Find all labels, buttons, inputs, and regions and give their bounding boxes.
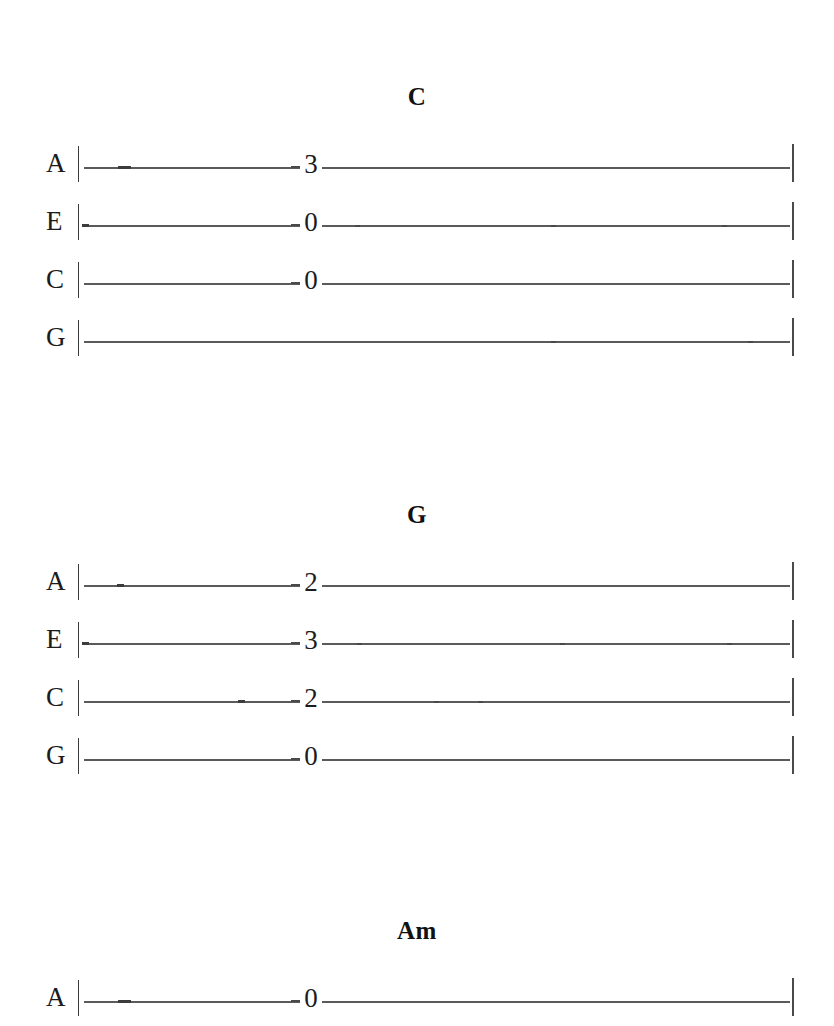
string-tick (727, 643, 732, 645)
fret-flank-dash (291, 282, 300, 284)
string-tick (355, 225, 360, 227)
string-label: C (46, 264, 74, 294)
string-row-g: G (0, 322, 834, 380)
chord-title: Am (0, 918, 834, 944)
string-line-right (322, 585, 790, 587)
string-line-full (84, 341, 790, 343)
string-tick (560, 643, 565, 645)
string-line-right (322, 225, 790, 227)
measure-bar-left (78, 564, 79, 600)
string-tick (357, 643, 362, 645)
string-label: E (46, 206, 74, 236)
title-spacer (0, 110, 834, 148)
string-label: A (46, 566, 74, 596)
measure-bar-right (792, 144, 794, 182)
measure-bar-left (78, 680, 79, 716)
string-line-right (322, 759, 790, 761)
chord-title: G (0, 502, 834, 528)
string-line-left (84, 643, 300, 645)
string-tick (124, 166, 131, 169)
string-line-left (84, 283, 300, 285)
measure-bar-right (792, 318, 794, 356)
tablature-page: CA3E0C0GGA2E3C2G0AmA0 (0, 0, 834, 1026)
string-line-right (322, 701, 790, 703)
string-label: E (46, 624, 74, 654)
string-line-left (84, 167, 300, 169)
string-line-right (322, 283, 790, 285)
fret-number: 3 (300, 625, 322, 655)
fret-flank-dash (291, 1000, 300, 1002)
measure-bar-left (78, 622, 79, 658)
chord-section-c: CA3E0C0G (0, 84, 834, 380)
string-tick (434, 701, 439, 703)
string-row-a: A2 (0, 566, 834, 624)
measure-bar-right (792, 736, 794, 774)
measure-bar-right (792, 260, 794, 298)
string-tick (82, 224, 89, 227)
measure-bar-right (792, 202, 794, 240)
measure-bar-right (792, 620, 794, 658)
string-label: G (46, 322, 74, 352)
measure-bar-left (78, 146, 79, 182)
string-row-g: G0 (0, 740, 834, 798)
fret-number: 2 (300, 567, 322, 597)
string-tick (124, 1000, 131, 1003)
chord-section-g: GA2E3C2G0 (0, 502, 834, 798)
string-line-left (84, 225, 300, 227)
string-tick (551, 225, 556, 227)
string-row-e: E0 (0, 206, 834, 264)
string-tick (478, 701, 483, 703)
string-tick (238, 700, 245, 703)
string-line-left (84, 759, 300, 761)
fret-number: 0 (300, 741, 322, 771)
measure-bar-right (792, 562, 794, 600)
fret-flank-dash (291, 224, 300, 226)
string-tick (551, 341, 556, 343)
string-line-left (84, 1001, 300, 1003)
fret-flank-dash (291, 584, 300, 586)
string-label: A (46, 148, 74, 178)
measure-bar-right (792, 678, 794, 716)
string-tick (722, 225, 727, 227)
chord-section-am: AmA0 (0, 918, 834, 1026)
string-label: G (46, 740, 74, 770)
string-line-right (322, 643, 790, 645)
fret-number: 2 (300, 683, 322, 713)
title-spacer (0, 944, 834, 982)
chord-title: C (0, 84, 834, 110)
string-line-right (322, 1001, 790, 1003)
string-row-e: E3 (0, 624, 834, 682)
string-row-a: A3 (0, 148, 834, 206)
measure-bar-right (792, 978, 794, 1016)
string-tick (748, 341, 753, 343)
measure-bar-left (78, 738, 79, 774)
string-row-a: A0 (0, 982, 834, 1026)
measure-bar-left (78, 320, 79, 356)
fret-number: 0 (300, 983, 322, 1013)
string-tick (82, 642, 89, 645)
measure-bar-left (78, 980, 79, 1016)
fret-flank-dash (291, 642, 300, 644)
fret-number: 3 (300, 149, 322, 179)
fret-flank-dash (291, 758, 300, 760)
string-tick (117, 584, 124, 587)
string-line-left (84, 701, 300, 703)
string-line-right (322, 167, 790, 169)
measure-bar-left (78, 262, 79, 298)
fret-flank-dash (291, 700, 300, 702)
string-label: A (46, 982, 74, 1012)
fret-number: 0 (300, 207, 322, 237)
measure-bar-left (78, 204, 79, 240)
string-row-c: C2 (0, 682, 834, 740)
fret-number: 0 (300, 265, 322, 295)
string-row-c: C0 (0, 264, 834, 322)
string-label: C (46, 682, 74, 712)
title-spacer (0, 528, 834, 566)
fret-flank-dash (291, 166, 300, 168)
